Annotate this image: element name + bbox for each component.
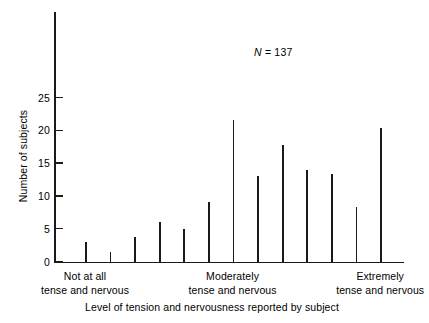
y-axis-tick — [56, 228, 63, 230]
x-axis-group-label-line1: Not at all — [15, 270, 155, 284]
bar — [85, 242, 87, 262]
y-axis-title: Number of subjects — [17, 86, 29, 226]
sample-size-value: = 137 — [262, 46, 293, 58]
bar — [282, 145, 284, 261]
bar — [331, 174, 333, 262]
x-axis-group-label: Extremelytense and nervous — [310, 270, 429, 297]
bar — [110, 252, 112, 262]
x-axis-line — [54, 262, 404, 263]
sample-size-annotation: N = 137 — [254, 46, 292, 58]
bar — [159, 222, 161, 261]
y-axis-tick — [56, 130, 63, 132]
y-axis-tick — [56, 97, 63, 99]
x-axis-group-label: Not at alltense and nervous — [15, 270, 155, 297]
x-axis-group-label-line2: tense and nervous — [310, 284, 429, 298]
y-axis-tick — [56, 261, 63, 263]
y-axis-line — [54, 12, 56, 263]
x-axis-group-label-line1: Extremely — [310, 270, 429, 284]
x-axis-group-label: Moderatelytense and nervous — [163, 270, 303, 297]
bar — [208, 202, 210, 261]
bar — [233, 120, 235, 261]
x-axis-group-label-line1: Moderately — [163, 270, 303, 284]
bar — [134, 237, 136, 261]
bar — [183, 229, 185, 262]
sample-size-symbol: N — [254, 46, 262, 58]
x-axis-group-label-line2: tense and nervous — [15, 284, 155, 298]
y-axis-tick-label: 0 — [22, 257, 50, 267]
y-axis-tick — [56, 162, 63, 164]
bar — [257, 176, 259, 261]
x-axis-title: Level of tension and nervousness reporte… — [0, 301, 424, 313]
bar — [306, 170, 308, 262]
y-axis-tick — [56, 195, 63, 197]
bar — [380, 128, 382, 261]
x-axis-group-label-line2: tense and nervous — [163, 284, 303, 298]
bar — [356, 207, 358, 261]
